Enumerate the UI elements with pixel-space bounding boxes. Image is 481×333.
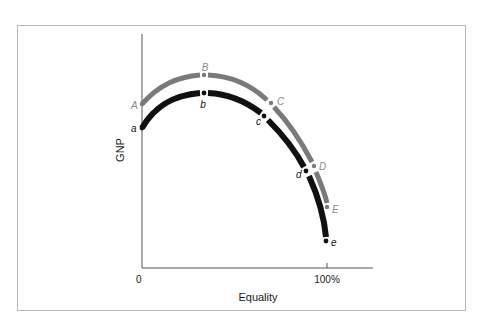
point-C bbox=[269, 101, 273, 105]
point-A bbox=[140, 102, 144, 106]
point-a bbox=[140, 126, 145, 131]
point-d bbox=[304, 169, 309, 174]
chart-plot: A B C D E a b c d e 0 100% Equality GNP bbox=[0, 0, 481, 333]
point-b bbox=[202, 91, 207, 96]
point-D bbox=[312, 164, 316, 168]
label-E: E bbox=[332, 204, 339, 215]
x-tick-label-0: 0 bbox=[136, 274, 142, 285]
point-e bbox=[324, 239, 329, 244]
label-b: b bbox=[200, 99, 206, 110]
label-d: d bbox=[296, 169, 302, 180]
label-C: C bbox=[277, 96, 285, 107]
x-axis-label: Equality bbox=[238, 291, 278, 303]
point-B bbox=[202, 73, 206, 77]
label-D: D bbox=[319, 161, 326, 172]
label-B: B bbox=[202, 62, 209, 73]
x-tick-label-100: 100% bbox=[314, 274, 340, 285]
y-axis-label: GNP bbox=[114, 138, 126, 162]
label-c: c bbox=[256, 116, 261, 127]
label-e: e bbox=[331, 237, 337, 248]
point-E bbox=[325, 205, 329, 209]
lower-curve-bc bbox=[208, 93, 261, 113]
label-A: A bbox=[130, 100, 138, 111]
label-a: a bbox=[131, 123, 137, 134]
point-c bbox=[262, 114, 267, 119]
